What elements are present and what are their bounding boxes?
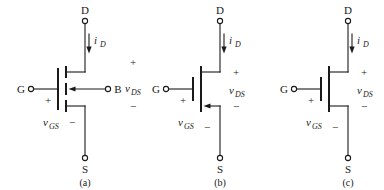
- gate-label-b: G: [152, 83, 160, 95]
- vgs-sub-a: GS: [49, 122, 59, 131]
- gate-terminal-b[interactable]: [163, 86, 168, 91]
- gate-label-c: G: [280, 83, 288, 95]
- source-label-b: S: [217, 163, 223, 175]
- vgs-sub-b: GS: [184, 122, 194, 131]
- vgs-plus-c: +: [308, 94, 314, 106]
- caption-b: (b): [214, 177, 226, 189]
- gate-label-a: G: [17, 83, 25, 95]
- vgs-plus-b: +: [180, 94, 186, 106]
- gate-terminal-c[interactable]: [291, 86, 296, 91]
- vgs-label-b: v: [178, 116, 183, 128]
- drain-label-c: D: [344, 4, 352, 16]
- drain-current-label-c: i: [357, 34, 360, 46]
- bulk-lead-a: [69, 86, 106, 91]
- vds-minus-c: −: [361, 100, 367, 112]
- source-terminal-c[interactable]: [345, 155, 350, 160]
- drain-label-b: D: [216, 4, 224, 16]
- gate-terminal-a[interactable]: [28, 86, 33, 91]
- vds-label-c: v: [357, 84, 362, 96]
- vds-plus-a: +: [130, 56, 136, 68]
- circuit-a: D i D G B: [17, 4, 141, 189]
- drain-current-sub-b: D: [234, 40, 241, 49]
- drain-current-arrow-b: [221, 34, 226, 54]
- drain-terminal-a[interactable]: [82, 18, 87, 23]
- bulk-label-a: B: [114, 83, 121, 95]
- circuit-b: D i D G S + v DS − + v GS −: [152, 4, 245, 189]
- vgs-label-a: v: [43, 116, 48, 128]
- caption-c: (c): [342, 177, 353, 189]
- vds-plus-c: +: [361, 66, 367, 78]
- vgs-minus-a: −: [69, 116, 75, 128]
- source-terminal-b[interactable]: [217, 155, 222, 160]
- vgs-minus-b: −: [204, 121, 210, 133]
- vgs-plus-a: +: [45, 94, 51, 106]
- circuit-c: D i D G S + v DS − + v GS − (c): [280, 4, 373, 189]
- drain-current-arrow-a: [86, 34, 91, 54]
- vgs-label-c: v: [306, 116, 311, 128]
- vds-label-b: v: [229, 84, 234, 96]
- caption-a: (a): [79, 177, 90, 189]
- vgs-sub-c: GS: [312, 122, 322, 131]
- vds-plus-b: +: [233, 66, 239, 78]
- drain-current-label-b: i: [229, 34, 232, 46]
- drain-label-a: D: [81, 4, 89, 16]
- vds-minus-a: −: [130, 100, 136, 112]
- drain-current-label-a: i: [94, 34, 97, 46]
- source-label-a: S: [82, 163, 88, 175]
- source-label-c: S: [345, 163, 351, 175]
- drain-terminal-b[interactable]: [217, 18, 222, 23]
- vds-sub-a: DS: [130, 88, 141, 97]
- mosfet-symbols-figure: D i D G B: [0, 0, 384, 190]
- source-arrow-b: [204, 103, 221, 108]
- vds-sub-b: DS: [234, 90, 245, 99]
- vds-label-a: v: [125, 82, 130, 94]
- vds-sub-c: DS: [362, 90, 373, 99]
- drain-terminal-c[interactable]: [345, 18, 350, 23]
- drain-current-sub-a: D: [99, 40, 106, 49]
- drain-current-arrow-c: [349, 34, 354, 54]
- vds-minus-b: −: [233, 100, 239, 112]
- source-terminal-a[interactable]: [82, 155, 87, 160]
- vgs-minus-c: −: [332, 121, 338, 133]
- bulk-terminal-a[interactable]: [105, 86, 110, 91]
- drain-current-sub-c: D: [362, 40, 369, 49]
